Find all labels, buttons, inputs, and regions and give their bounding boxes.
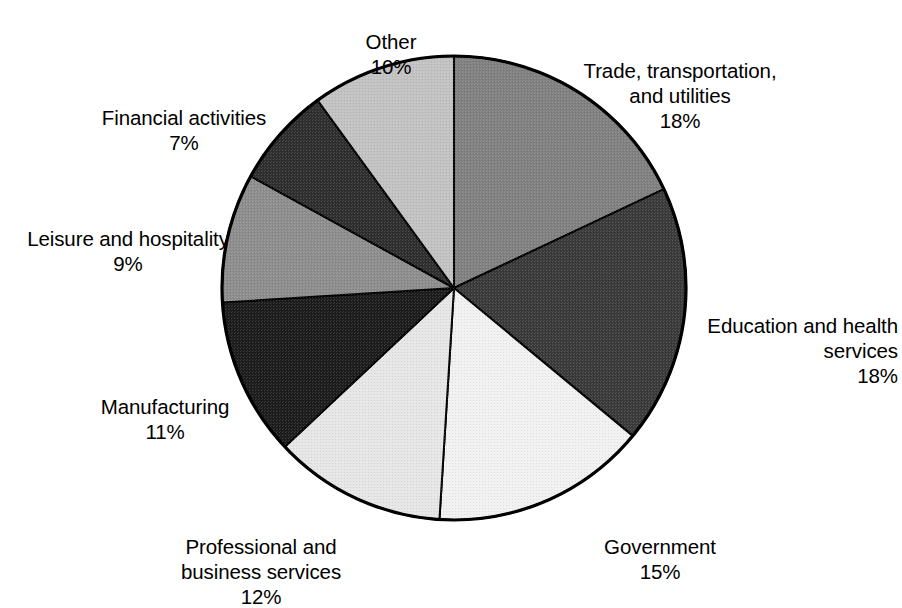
- pie-label-education-health-services: Education and health services 18%: [608, 288, 898, 413]
- pie-label-other-value: 10%: [316, 54, 466, 79]
- pie-label-professional-business-services: Professional and business services 12%: [148, 509, 374, 608]
- pie-label-financial-name: Financial activities: [102, 106, 266, 129]
- pie-label-leisure-value: 9%: [2, 251, 254, 276]
- pie-label-manufacturing-value: 11%: [60, 419, 270, 444]
- pie-label-other: Other 10%: [316, 4, 466, 104]
- pie-label-other-name: Other: [366, 30, 417, 53]
- pie-label-financial-value: 7%: [72, 130, 296, 155]
- pie-label-leisure-name: Leisure and hospitality: [27, 227, 229, 250]
- pie-label-trade-value: 18%: [556, 108, 804, 133]
- pie-label-manufacturing-name: Manufacturing: [101, 395, 230, 418]
- pie-label-financial-activities: Financial activities 7%: [72, 80, 296, 180]
- pie-label-trade-transportation-utilities: Trade, transportation, and utilities 18%: [556, 33, 804, 158]
- pie-label-government-name: Government: [604, 535, 716, 558]
- pie-label-professional-value: 12%: [148, 584, 374, 608]
- pie-label-government-value: 15%: [560, 559, 760, 584]
- pie-label-education-value: 18%: [608, 363, 898, 388]
- pie-label-professional-name: Professional and business services: [181, 535, 341, 583]
- pie-label-leisure-hospitality: Leisure and hospitality 9%: [2, 201, 254, 301]
- pie-label-trade-name: Trade, transportation, and utilities: [583, 59, 776, 107]
- pie-label-manufacturing: Manufacturing 11%: [60, 369, 270, 469]
- pie-label-government: Government 15%: [560, 509, 760, 608]
- pie-label-education-name: Education and health services: [707, 314, 898, 362]
